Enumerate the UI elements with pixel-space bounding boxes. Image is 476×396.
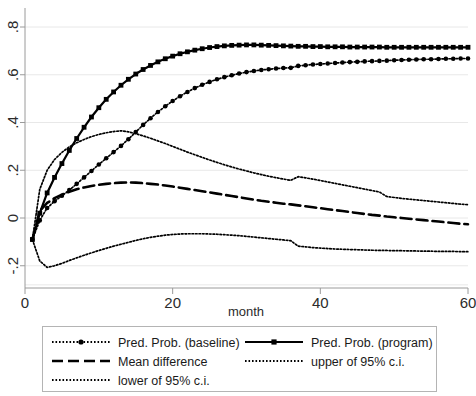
marker-1-34: [281, 43, 286, 48]
marker-1-24: [207, 45, 212, 50]
series-line-2: [32, 182, 468, 239]
marker-1-7: [82, 125, 87, 130]
marker-0-29: [244, 70, 249, 75]
y-tick-label-1: 0: [4, 214, 21, 222]
marker-0-26: [222, 75, 227, 80]
marker-0-27: [229, 73, 234, 78]
x-tick-label-2: 40: [312, 294, 329, 311]
marker-0-54: [429, 57, 434, 62]
marker-0-36: [296, 64, 301, 69]
y-tick-label-2: .2: [4, 164, 21, 177]
marker-1-43: [347, 45, 352, 50]
x-tick-label-3: 60: [460, 294, 476, 311]
marker-1-14: [133, 72, 138, 77]
chart-figure: -.20.2.4.6.8 0204060 month Pred. Prob. (…: [0, 0, 476, 396]
marker-1-49: [392, 45, 397, 50]
marker-0-24: [207, 80, 212, 85]
marker-1-31: [259, 43, 264, 48]
marker-1-28: [237, 43, 242, 48]
marker-0-39: [318, 62, 323, 67]
marker-0-52: [414, 57, 419, 62]
marker-1-38: [311, 44, 316, 49]
marker-1-51: [407, 45, 412, 50]
marker-0-21: [185, 90, 190, 95]
legend-marker-1: [271, 339, 276, 344]
marker-0-48: [384, 58, 389, 63]
marker-0-46: [370, 59, 375, 64]
marker-1-32: [266, 43, 271, 48]
marker-0-18: [163, 104, 168, 109]
marker-0-17: [156, 110, 161, 115]
y-tick-label-4: .6: [4, 68, 21, 81]
marker-1-47: [377, 45, 382, 50]
marker-1-54: [429, 45, 434, 50]
marker-1-35: [288, 44, 293, 49]
legend-label-4: lower of 95% c.i.: [118, 374, 210, 388]
marker-0-35: [289, 66, 294, 71]
marker-1-8: [89, 115, 94, 120]
series-line-1: [32, 45, 468, 240]
marker-1-25: [215, 44, 220, 49]
marker-1-13: [126, 77, 131, 82]
marker-0-55: [436, 57, 441, 62]
marker-0-50: [399, 58, 404, 63]
series-line-0: [32, 59, 468, 240]
marker-0-9: [97, 162, 102, 167]
marker-1-56: [443, 45, 448, 50]
marker-0-59: [466, 56, 471, 61]
y-tick-label-5: .8: [4, 21, 21, 34]
marker-0-25: [215, 77, 220, 82]
marker-0-41: [333, 61, 338, 66]
marker-0-30: [252, 69, 257, 74]
marker-0-47: [377, 59, 382, 64]
marker-0-56: [444, 56, 449, 61]
marker-1-22: [192, 48, 197, 53]
x-tick-label-0: 0: [21, 294, 29, 311]
marker-1-27: [229, 43, 234, 48]
marker-1-20: [178, 51, 183, 56]
marker-0-6: [74, 182, 79, 187]
y-tick-label-0: -.2: [4, 257, 21, 275]
marker-0-13: [126, 137, 131, 142]
marker-0-58: [458, 56, 463, 61]
marker-1-39: [318, 44, 323, 49]
marker-1-48: [384, 45, 389, 50]
marker-1-50: [399, 45, 404, 50]
legend-label-0: Pred. Prob. (baseline): [118, 336, 240, 350]
axis-lines: [25, 8, 468, 288]
marker-1-6: [74, 136, 79, 141]
marker-1-57: [451, 45, 456, 50]
marker-0-16: [148, 116, 153, 121]
marker-1-58: [458, 45, 463, 50]
marker-1-21: [185, 49, 190, 54]
marker-1-2: [45, 191, 50, 196]
marker-1-36: [296, 44, 301, 49]
marker-0-45: [362, 59, 367, 64]
marker-1-46: [370, 45, 375, 50]
marker-1-37: [303, 44, 308, 49]
series-line-3: [32, 131, 468, 240]
marker-0-32: [266, 67, 271, 72]
series-layer: [30, 43, 470, 268]
marker-1-16: [148, 63, 153, 68]
y-tick-group: -.20.2.4.6.8: [4, 21, 26, 275]
series-line-4: [32, 234, 468, 268]
marker-0-20: [178, 94, 183, 99]
marker-1-30: [251, 43, 256, 48]
marker-0-8: [89, 169, 94, 174]
marker-0-38: [311, 62, 316, 67]
y-tick-label-3: .4: [4, 116, 21, 129]
marker-1-11: [111, 90, 116, 95]
marker-1-12: [119, 83, 124, 88]
marker-1-53: [421, 45, 426, 50]
marker-1-23: [200, 46, 205, 51]
marker-1-17: [156, 59, 161, 64]
marker-0-23: [200, 82, 205, 87]
chart-canvas: -.20.2.4.6.8 0204060 month Pred. Prob. (…: [0, 0, 476, 396]
legend-marker-0: [78, 339, 83, 344]
marker-1-59: [466, 45, 471, 50]
marker-0-49: [392, 58, 397, 63]
marker-1-18: [163, 56, 168, 61]
marker-0-11: [111, 150, 116, 155]
marker-1-26: [222, 43, 227, 48]
